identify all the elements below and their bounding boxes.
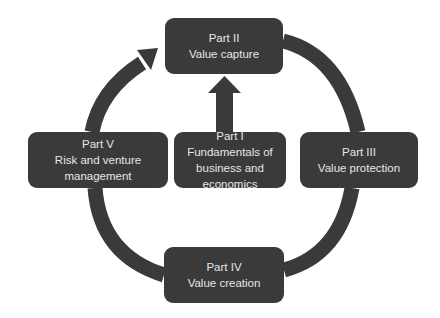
node-part-iv-value-creation: Part IV Value creation bbox=[164, 247, 284, 303]
node-title: Value creation bbox=[188, 275, 261, 291]
node-part-label: Part IV bbox=[206, 259, 241, 275]
arc-right-to-bottom bbox=[284, 188, 352, 270]
block-arrow-shaft bbox=[216, 92, 233, 132]
arc-left-to-top bbox=[92, 63, 142, 132]
arc-bottom-to-left bbox=[95, 188, 164, 275]
node-title: Fundamentals of business and economics bbox=[178, 144, 282, 192]
node-part-label: Part II bbox=[209, 30, 240, 46]
node-title: Value protection bbox=[318, 160, 400, 176]
node-part-iii-value-protection: Part III Value protection bbox=[300, 132, 418, 188]
node-part-label: Part I bbox=[216, 128, 243, 144]
node-part-label: Part V bbox=[82, 136, 114, 152]
node-title: Value capture bbox=[189, 46, 259, 62]
node-title: Risk and venture management bbox=[32, 152, 164, 184]
node-part-ii-value-capture: Part II Value capture bbox=[165, 18, 283, 74]
node-part-label: Part III bbox=[342, 144, 376, 160]
node-part-i-fundamentals: Part I Fundamentals of business and econ… bbox=[174, 132, 286, 188]
node-part-v-risk-and-venture-management: Part V Risk and venture management bbox=[28, 132, 168, 188]
block-arrow-head-icon bbox=[208, 76, 241, 93]
arc-top-to-right bbox=[283, 41, 358, 132]
diagram-canvas: Part II Value capture Part V Risk and ve… bbox=[0, 0, 440, 318]
